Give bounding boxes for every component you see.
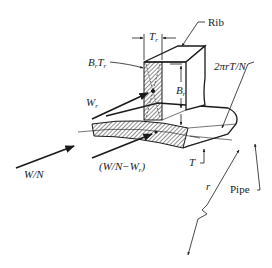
radius-label: r	[206, 180, 211, 192]
wn-minus-wr-label: (W/N−Wr)	[99, 160, 146, 174]
br-label: Br	[176, 84, 186, 98]
rib-label: Rib	[208, 16, 224, 28]
wn-label: W/N	[24, 168, 44, 180]
brtr-leader	[110, 62, 143, 68]
pipe-label: Pipe	[230, 183, 250, 195]
rib-leader	[182, 22, 205, 46]
pipe-rib-diagram: Tr Br Rib BrTr Wr W/N (W/N−Wr) T 2πrT/N …	[0, 0, 272, 268]
wr-label: Wr	[86, 96, 98, 110]
brtr-label: BrTr	[88, 56, 107, 70]
centroid-dot	[154, 130, 157, 133]
tr-label: Tr	[149, 30, 158, 44]
radius-line	[188, 150, 239, 255]
arc-label: 2πrT/N	[214, 60, 246, 72]
t-thickness-label: T	[189, 156, 196, 168]
wn-force-arrow	[16, 146, 74, 168]
pipe-leader	[255, 144, 260, 190]
